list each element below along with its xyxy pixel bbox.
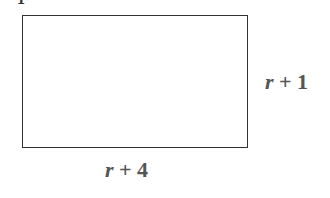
side-length-label: r + 1 [265, 69, 308, 95]
rectangle-shape [22, 15, 248, 148]
cropped-glyph: 1 [17, 0, 25, 8]
bottom-length-label: r + 4 [105, 157, 148, 183]
side-length-expression: + 1 [274, 69, 309, 94]
variable-r: r [105, 157, 114, 182]
bottom-length-expression: + 4 [114, 157, 149, 182]
variable-r: r [265, 69, 274, 94]
